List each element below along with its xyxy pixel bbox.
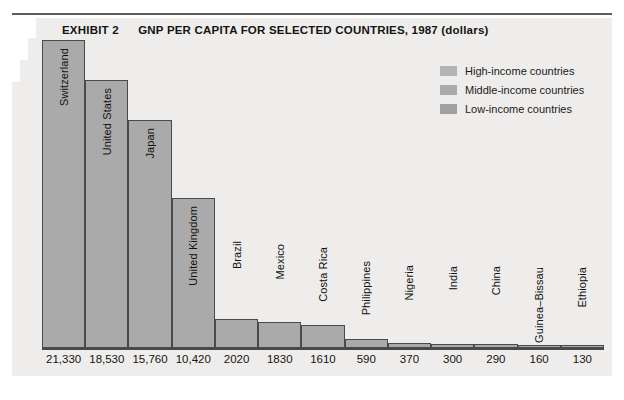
bar-category-label: Costa Rica	[317, 247, 329, 302]
bar-category-label: India	[447, 266, 459, 290]
bar-value-label: 2020	[215, 353, 258, 365]
bar-value-label: 18,530	[85, 353, 128, 365]
bar-category-label: Switzerland	[58, 48, 70, 106]
bar-category-label: Mexico	[274, 244, 286, 279]
bar-category-label: Nigeria	[403, 265, 415, 301]
top-rule	[12, 13, 612, 15]
value-label-row: 21,33018,53015,76010,4202020183016105903…	[42, 353, 604, 371]
bar	[301, 325, 344, 348]
bar-category-label: Guinea–Bissau	[533, 267, 545, 343]
chart-title-text: GNP PER CAPITA FOR SELECTED COUNTRIES, 1…	[138, 24, 488, 36]
plot-area: SwitzerlandUnited StatesJapanUnited King…	[42, 40, 604, 348]
exhibit-label: EXHIBIT 2	[62, 24, 119, 36]
bar-category-label: United States	[101, 88, 113, 155]
bar-value-label: 1830	[258, 353, 301, 365]
bar	[258, 322, 301, 348]
bar	[345, 339, 388, 348]
bar-value-label: 15,760	[128, 353, 171, 365]
bar-category-label: China	[490, 266, 502, 295]
bar-value-label: 21,330	[42, 353, 85, 365]
chart-title: EXHIBIT 2 GNP PER CAPITA FOR SELECTED CO…	[62, 24, 489, 36]
bar-value-label: 130	[561, 353, 604, 365]
bar-value-label: 370	[388, 353, 431, 365]
bar-value-label: 590	[345, 353, 388, 365]
bar-category-label: Japan	[144, 128, 156, 158]
exhibit-figure: EXHIBIT 2 GNP PER CAPITA FOR SELECTED CO…	[0, 0, 624, 400]
bar-category-label: Ethiopia	[576, 267, 588, 308]
bar-category-label: Philippines	[360, 261, 372, 315]
bar-value-label: 1610	[301, 353, 344, 365]
bar-value-label: 160	[518, 353, 561, 365]
bar-category-label: United Kingdom	[187, 206, 199, 286]
bar-value-label: 10,420	[172, 353, 215, 365]
bar-category-label: Brazil	[231, 241, 243, 269]
bar	[215, 319, 258, 348]
axis-baseline	[42, 348, 604, 350]
bar-value-label: 300	[431, 353, 474, 365]
bar-value-label: 290	[474, 353, 517, 365]
